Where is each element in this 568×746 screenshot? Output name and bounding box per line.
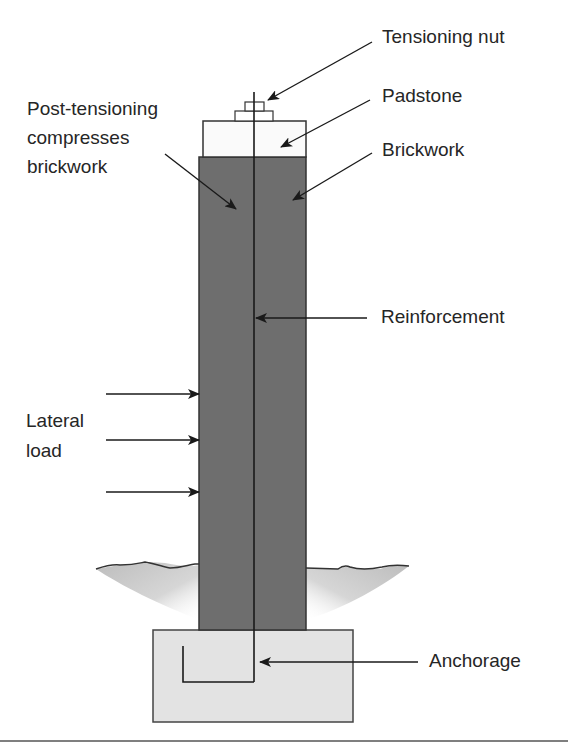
label-post-tensioning-line2: compresses [27,123,158,152]
label-lateral-load-line2: load [26,436,84,466]
label-post-tensioning-line3: brickwork [27,152,158,181]
arrow-tensioning-nut [268,42,372,100]
label-tensioning-nut: Tensioning nut [382,25,505,49]
label-post-tensioning: Post-tensioning compresses brickwork [27,94,158,181]
label-lateral-load: Lateral load [26,406,84,466]
ground-right [306,565,409,620]
label-lateral-load-line1: Lateral [26,406,84,436]
label-reinforcement: Reinforcement [381,305,505,329]
label-anchorage: Anchorage [429,649,521,673]
label-post-tensioning-line1: Post-tensioning [27,94,158,123]
brickwork-column [199,157,306,630]
label-padstone: Padstone [382,84,462,108]
label-brickwork: Brickwork [382,138,464,162]
ground-left [96,562,200,620]
